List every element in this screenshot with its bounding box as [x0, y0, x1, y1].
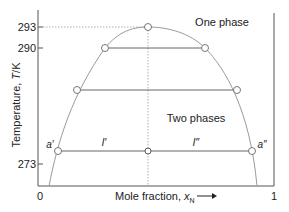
- point-a-prime: [55, 148, 62, 155]
- point-middle-left: [74, 87, 81, 94]
- point-290-left: [102, 45, 109, 52]
- y-tick-label-293: 293: [18, 21, 36, 33]
- y-axis-label-suffix: /K: [10, 62, 22, 73]
- y-tick-label-273: 273: [18, 158, 36, 170]
- coexistence-curve: [49, 27, 257, 186]
- point-a-double-prime: [249, 148, 256, 155]
- region-label-one-phase: One phase: [195, 16, 249, 28]
- label-l-double-prime: l″: [193, 136, 200, 148]
- point-290-right: [202, 45, 209, 52]
- point-overall-composition: [145, 148, 151, 154]
- x-axis-arrowhead-icon: [212, 193, 217, 199]
- label-a-double-prime: a″: [257, 139, 267, 150]
- x-axis-label-prefix: Mole fraction,: [115, 190, 184, 202]
- label-l-prime: l′: [102, 136, 107, 148]
- point-middle-right: [234, 87, 241, 94]
- y-tick-label-290: 290: [18, 42, 36, 54]
- y-axis-label: Temperature, T/K: [10, 62, 22, 148]
- y-axis-label-prefix: Temperature,: [10, 80, 22, 148]
- x-tick-label-1: 1: [271, 190, 277, 202]
- x-tick-label-0: 0: [37, 190, 43, 202]
- critical-point: [145, 24, 152, 31]
- x-axis-label: Mole fraction, xN: [115, 190, 195, 204]
- x-axis-label-sub: N: [190, 197, 195, 204]
- phase-diagram: 293 290 273 0 1 Temperature, T/K Mole fr…: [0, 0, 289, 212]
- region-label-two-phases: Two phases: [167, 112, 226, 124]
- label-a-prime: a′: [46, 139, 55, 150]
